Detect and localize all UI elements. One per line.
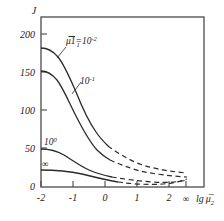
curve-label-1e0-base: 10: [44, 137, 54, 147]
curve-label-mu-exp: -2: [91, 35, 97, 42]
chart-svg: 200 150 100 50 0 -2 -1 0 1 2 J ∞ lgμ̅2 μ…: [0, 0, 224, 221]
x-axis-title-prefix: lg: [196, 193, 204, 204]
y-tick-label-200: 200: [20, 29, 35, 40]
y-tick-label-50: 50: [25, 143, 35, 154]
y-tick-label-150: 150: [20, 67, 35, 78]
y-axis-title: J: [32, 5, 37, 16]
x-tick-label-0: 0: [103, 192, 108, 203]
figure-container: 200 150 100 50 0 -2 -1 0 1 2 J ∞ lgμ̅2 μ…: [0, 0, 224, 221]
x-tick-label-2: 2: [167, 192, 172, 203]
x-tick-label-1: 1: [135, 192, 140, 203]
curve-label-1e-1-exp: -1: [90, 75, 95, 82]
y-tick-label-100: 100: [20, 105, 35, 116]
x-tick-label-m2: -2: [37, 192, 45, 203]
curve-label-1e-1-base: 10: [80, 76, 90, 86]
x-axis-infinity-label: ∞: [183, 194, 189, 204]
curve-label-infinity: ∞: [42, 159, 48, 169]
y-tick-label-0: 0: [30, 181, 35, 192]
curve-label-mu-subscript: 1: [77, 41, 80, 48]
x-tick-label-m1: -1: [69, 192, 77, 203]
